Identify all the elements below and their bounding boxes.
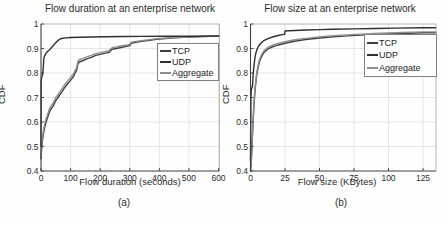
chart-title-a: Flow duration at an enterprise network — [22, 3, 238, 15]
legend-a: TCP UDP Aggregate — [157, 43, 219, 81]
y-tick-label: 0.9 — [236, 44, 248, 54]
legend-label-tcp: TCP — [172, 46, 190, 56]
chart-title-b: Flow size at an enterprise network — [242, 3, 438, 15]
subfigure-caption-a: (a) — [39, 197, 209, 211]
y-tick-label: 0.6 — [236, 117, 248, 127]
y-tick-label: 0.9 — [27, 44, 39, 54]
subfigure-caption-b: (b) — [256, 197, 426, 211]
y-axis-label-a: CDF — [0, 92, 20, 104]
y-tick-label: 0.5 — [236, 142, 248, 152]
legend-item-tcp: TCP — [160, 46, 216, 56]
udp-line-swatch — [160, 61, 171, 63]
y-tick-label: 0.4 — [27, 166, 39, 176]
y-tick-label: 0.5 — [27, 142, 39, 152]
y-axis-label-b: CDF — [220, 92, 244, 104]
tcp-line-swatch — [367, 42, 378, 44]
legend-item-udp: UDP — [160, 57, 216, 67]
legend-item-tcp: TCP — [367, 38, 434, 48]
legend-item-aggregate: Aggregate — [160, 68, 216, 78]
legend-label-aggregate: Aggregate — [172, 68, 214, 78]
y-tick-label: 0.6 — [27, 117, 39, 127]
legend-label-aggregate: Aggregate — [379, 63, 421, 73]
udp-line-swatch — [367, 54, 378, 56]
figure-canvas: 01002003004005006000.40.50.60.70.80.9102… — [0, 0, 448, 225]
y-tick-label: 0.7 — [27, 93, 39, 103]
legend-label-udp: UDP — [172, 57, 191, 67]
legend-item-aggregate: Aggregate — [367, 63, 434, 73]
x-axis-label-b: Flow size (KBytes) — [247, 176, 427, 188]
y-tick-label: 0.8 — [27, 68, 39, 78]
legend-item-udp: UDP — [367, 50, 434, 60]
tcp-line-swatch — [160, 50, 171, 52]
legend-b: TCP UDP Aggregate — [364, 34, 437, 77]
y-tick-label: 0.8 — [236, 68, 248, 78]
aggregate-line-swatch — [160, 72, 171, 74]
y-tick-label: 0.4 — [236, 166, 248, 176]
x-axis-label-a: Flow duration (seconds) — [40, 176, 220, 188]
legend-label-udp: UDP — [379, 50, 398, 60]
aggregate-line-swatch — [367, 67, 378, 69]
y-tick-label: 1 — [34, 19, 39, 29]
legend-label-tcp: TCP — [379, 38, 397, 48]
y-tick-label: 1 — [243, 19, 248, 29]
